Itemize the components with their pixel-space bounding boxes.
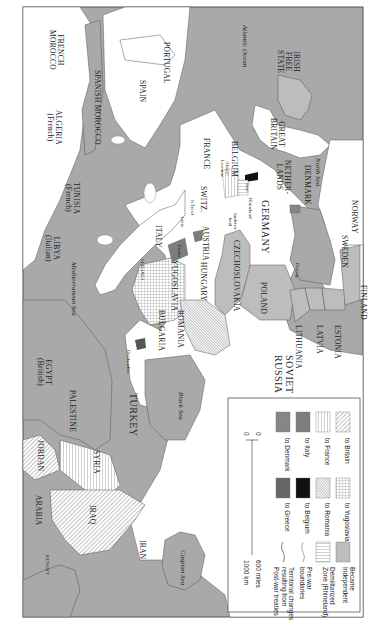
label-finland: FINLAND	[359, 285, 367, 320]
label-kuwait: KUWAIT	[45, 555, 50, 575]
scale-zero-miles: 0	[255, 432, 262, 436]
label-mediterranean-sea: Mediterranean Sea	[70, 262, 77, 316]
label-belgium: BELGIUM	[230, 141, 238, 177]
scale-600-miles: 600 miles	[255, 560, 262, 588]
western-thrace	[135, 338, 146, 350]
label-black-sea: Black Sea	[177, 392, 184, 420]
label-french-morocco: FRENCH MOROCCO	[48, 30, 64, 70]
label-denmark: DENMARK	[303, 165, 311, 205]
label-lithuania: LITHUANIA	[294, 325, 302, 369]
label-netherlands: NETHER- LANDS	[275, 160, 291, 194]
label-algeria: ALGERIA (French)	[46, 110, 62, 145]
legend-to-greece: to Greece	[284, 503, 291, 532]
label-caspian-sea: Caspian Sea	[179, 550, 186, 585]
legend-to-italy: to Italy	[304, 438, 311, 457]
label-sudetenland: Sudeten- land	[228, 213, 239, 231]
label-yugoslavia: YUGOSLAVIA	[170, 260, 178, 311]
label-soviet-russia: SOVIET RUSSIA	[273, 355, 294, 394]
label-turkey: TURKEY	[128, 393, 139, 437]
label-s-tyrol: S.Tyrol	[190, 200, 195, 215]
label-saar: Saar	[245, 183, 250, 192]
label-switzerland: SWITZ.	[199, 186, 207, 213]
sicily	[97, 235, 113, 245]
label-danzig: Danzig	[295, 263, 300, 277]
label-iraq: IRAQ	[88, 505, 96, 525]
map-canvas	[0, 0, 375, 632]
label-norway: NORWAY	[350, 200, 358, 234]
label-latvia: LATVIA	[315, 325, 323, 354]
legend-to-britain: to Britain	[344, 438, 351, 464]
label-romania: ROMANIA	[176, 310, 184, 348]
label-libya: LIBYA (Italian)	[44, 235, 60, 262]
label-north-sea: North Sea	[314, 158, 321, 186]
legend-territorial-changes: Territorial changes resulting from Post-…	[273, 567, 295, 620]
label-spanish-morocco: SPANISH MOROCCO	[93, 70, 101, 145]
legend-to-yugoslavia: to Yugoslavia	[344, 503, 351, 542]
label-fiume: Fiume	[177, 245, 182, 258]
legend-to-romania: to Romania	[324, 503, 331, 536]
north-schleswig	[290, 205, 300, 213]
label-jordan: JORDAN	[36, 440, 44, 471]
label-istria: Istria	[180, 217, 185, 227]
scale-1000-km: 1000 km	[243, 560, 250, 585]
label-syria: SYRIA	[92, 450, 100, 474]
label-albania: ALBANIA	[140, 258, 145, 281]
label-portugal: PORTUGAL	[162, 42, 170, 84]
legend-became-independent: Became Independent	[341, 567, 356, 603]
legend-pre-war-boundaries: Pre-war boundaries	[298, 567, 313, 599]
legend-to-belgium: to Belgium	[304, 503, 311, 534]
label-alsace-lorraine: Alsace- Lorraine	[220, 160, 231, 177]
estonia	[322, 288, 345, 310]
label-spain: SPAIN	[138, 80, 146, 102]
label-czechoslovakia: CZECHOSLOVAKIA	[232, 240, 240, 312]
scale-zero-km: 0	[243, 432, 250, 436]
label-poland: POLAND	[259, 282, 267, 314]
label-tunisia: TUNISIA (French)	[64, 182, 80, 214]
legend-to-denmark: to Denmark	[284, 438, 291, 472]
label-arabia: ARABIA	[34, 495, 42, 526]
label-italy: ITALY	[154, 225, 162, 248]
label-germany: GERMANY	[260, 200, 271, 254]
legend-demilitarized-zone: Demilitarized Zone (Rhineland)	[321, 567, 336, 617]
label-irish-free-state: IRISH FREE STATE	[276, 50, 300, 73]
label-france: FRANCE	[202, 138, 210, 169]
label-iran: IRAN	[138, 540, 146, 560]
label-great-britain: GREAT BRITAIN	[269, 118, 285, 150]
legend-to-france: to France	[324, 438, 331, 465]
label-egypt: EGYPT (British)	[36, 358, 52, 386]
label-rhineland: Rhineland	[248, 198, 253, 219]
label-palestine: PALESTINE	[68, 390, 76, 432]
label-estonia: ESTONIA	[333, 325, 341, 359]
label-austria: AUSTRIA	[201, 226, 209, 261]
label-sweden: SWEDEN	[340, 235, 348, 268]
label-atlantic-ocean: Atlantic Ocean	[241, 25, 248, 67]
corsica-sardinia	[144, 183, 156, 203]
label-dardanelles: Dardanelles	[126, 350, 131, 374]
balearic	[111, 136, 125, 144]
label-hungary: HUNGARY	[199, 262, 207, 301]
label-bulgaria: BULGARIA	[157, 310, 165, 351]
